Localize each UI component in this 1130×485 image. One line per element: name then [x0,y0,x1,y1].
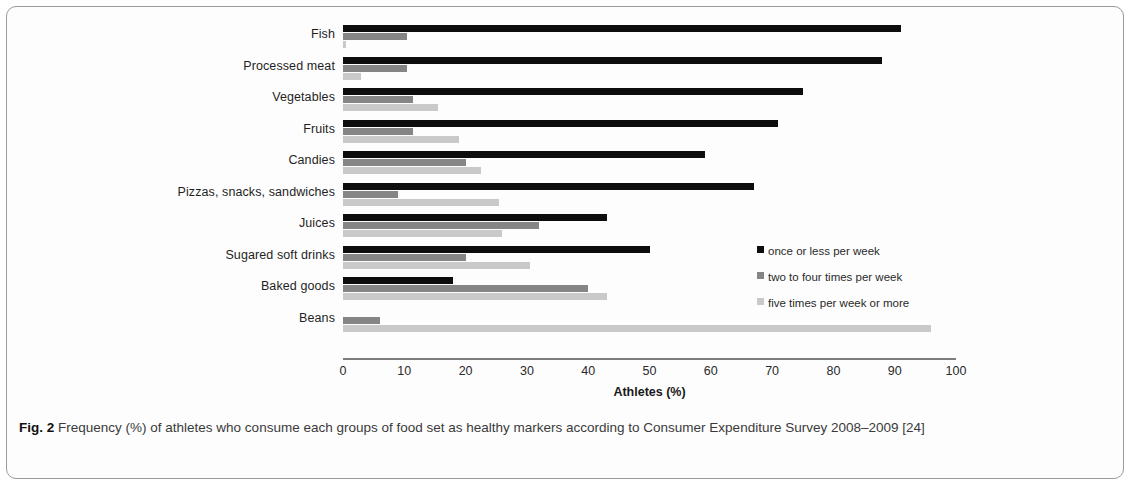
bar [343,325,931,332]
x-axis-tick-label: 10 [384,364,424,378]
bar [343,151,705,158]
square-swatch-icon [757,298,764,305]
bar [343,183,754,190]
bar [343,293,607,300]
bar [343,120,778,127]
y-axis-label: Processed meat [115,59,335,73]
x-axis-tick-label: 40 [568,364,608,378]
bar [343,159,466,166]
y-axis-label: Sugared soft drinks [115,248,335,262]
y-axis-label: Baked goods [115,279,335,293]
x-axis-tick-label: 60 [691,364,731,378]
bar [343,41,346,48]
bar [343,65,407,72]
bar-group [343,57,956,89]
legend-item: five times per week or more [757,296,997,322]
figure-caption-label: Fig. 2 [19,420,54,435]
legend-item-label: five times per week or more [768,297,909,309]
legend-item-label: once or less per week [768,245,880,257]
bar [343,96,413,103]
chart-plot-area: FishProcessed meatVegetablesFruitsCandie… [7,7,1125,407]
bar [343,167,481,174]
x-axis-tick-label: 20 [446,364,486,378]
x-axis-tick-label: 50 [630,364,670,378]
bar-group [343,214,956,246]
bar [343,277,453,284]
y-axis-label: Pizzas, snacks, sandwiches [115,185,335,199]
x-axis-tick-label: 90 [875,364,915,378]
legend-item: once or less per week [757,244,997,270]
bar [343,254,466,261]
y-axis-label: Beans [115,311,335,325]
bar [343,222,539,229]
bar-group [343,183,956,215]
y-axis-label: Fruits [115,122,335,136]
bar [343,88,803,95]
y-axis-label: Juices [115,216,335,230]
figure-caption: Fig. 2 Frequency (%) of athletes who con… [19,418,1109,439]
bar [343,191,398,198]
bar [343,262,530,269]
bar [343,246,650,253]
bar [343,57,882,64]
bar [343,214,607,221]
bar [343,136,459,143]
figure-card: FishProcessed meatVegetablesFruitsCandie… [6,6,1124,479]
figure-caption-text: Frequency (%) of athletes who consume ea… [58,420,925,435]
bar-group [343,151,956,183]
x-axis-line [343,358,956,360]
bar-group [343,120,956,152]
y-axis-label: Candies [115,153,335,167]
x-axis-tick-label: 70 [752,364,792,378]
bar-group [343,88,956,120]
bar [343,317,380,324]
x-axis-tick-label: 30 [507,364,547,378]
x-axis-tick-label: 0 [323,364,363,378]
bar-group [343,25,956,57]
bar [343,25,901,32]
bar [343,199,499,206]
square-swatch-icon [757,272,764,279]
bar [343,33,407,40]
x-axis-tick-label: 80 [813,364,853,378]
legend-item-label: two to four times per week [768,271,902,283]
bar [343,128,413,135]
x-axis-tick-label: 100 [936,364,976,378]
chart-legend: once or less per weektwo to four times p… [757,244,997,322]
legend-item: two to four times per week [757,270,997,296]
bar [343,73,361,80]
x-axis-title: Athletes (%) [343,385,956,399]
square-swatch-icon [757,246,764,253]
y-axis-label: Vegetables [115,90,335,104]
bar [343,230,502,237]
y-axis-label: Fish [115,27,335,41]
bar [343,285,588,292]
bar [343,104,438,111]
